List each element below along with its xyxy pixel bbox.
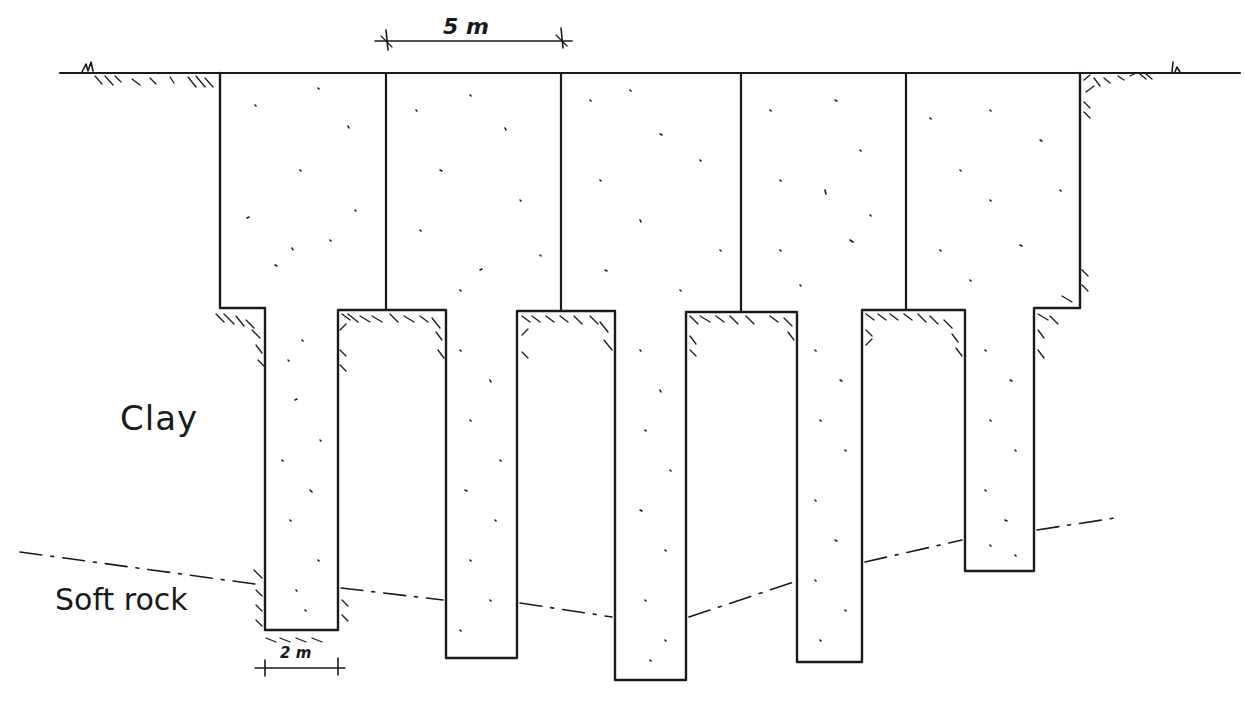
pile-width-label: 2 m xyxy=(280,644,311,662)
soft-rock-label: Soft rock xyxy=(55,582,188,617)
grass-tuft-right-icon xyxy=(1172,62,1180,72)
panel-width-label: 5 m xyxy=(443,14,489,39)
clay-label: Clay xyxy=(120,398,198,438)
panel-joints xyxy=(386,73,906,312)
concrete-speckle xyxy=(247,88,1061,661)
soil-hatching xyxy=(95,73,1152,642)
grass-tuft-left-icon xyxy=(82,62,93,72)
